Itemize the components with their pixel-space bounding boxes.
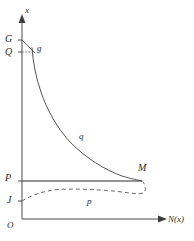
point-g-marker bbox=[34, 52, 35, 53]
point-label-M: M bbox=[138, 163, 146, 173]
tick-label-J: J bbox=[7, 195, 11, 205]
x-axis-arrowhead bbox=[158, 216, 167, 223]
curve-q bbox=[32, 48, 142, 181]
curve-p bbox=[22, 182, 145, 202]
y-axis-arrowhead bbox=[19, 14, 26, 23]
tick-label-G: G bbox=[5, 34, 12, 44]
figure-canvas bbox=[0, 0, 194, 241]
point-label-g: g bbox=[37, 44, 42, 53]
curve-label-p: p bbox=[87, 197, 92, 206]
y-axis-label: x bbox=[25, 6, 29, 15]
curve-label-q: q bbox=[79, 132, 84, 141]
origin-label: O bbox=[7, 221, 14, 230]
figure-container: x G Q g q P J p M O N(x) bbox=[0, 0, 194, 241]
x-axis-label: N(x) bbox=[168, 215, 184, 224]
tick-label-P: P bbox=[5, 173, 11, 183]
segment-G-to-g bbox=[22, 40, 35, 53]
tick-label-Q: Q bbox=[5, 47, 12, 57]
